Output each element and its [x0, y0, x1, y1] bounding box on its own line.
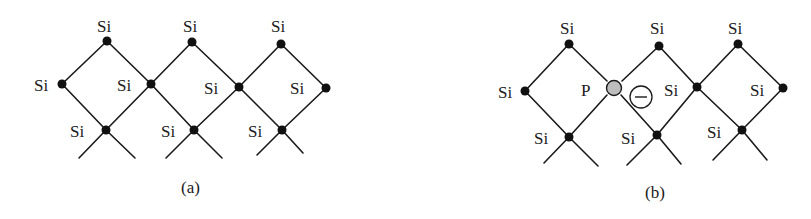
panel-b: Si Si Si Si P Si Si Si Si Si (b) — [498, 19, 788, 202]
si-label: Si — [290, 79, 304, 98]
panel-a: Si Si Si Si Si Si Si Si Si Si (a) — [34, 17, 331, 197]
free-electron — [630, 86, 652, 108]
si-atom — [693, 83, 702, 92]
si-atom — [147, 80, 156, 89]
si-label: Si — [97, 17, 111, 36]
si-label: Si — [70, 122, 84, 141]
si-label: Si — [161, 122, 175, 141]
caption-b: (b) — [645, 183, 665, 202]
si-atom — [58, 80, 67, 89]
atom-labels: Si Si Si Si Si Si Si Si Si Si — [34, 17, 304, 141]
si-label: Si — [498, 83, 512, 102]
si-label: Si — [750, 81, 764, 100]
si-atom — [655, 42, 664, 51]
si-label: Si — [248, 122, 262, 141]
si-label: Si — [560, 19, 574, 38]
si-label: Si — [621, 129, 635, 148]
si-label: Si — [664, 81, 678, 100]
si-label: Si — [707, 123, 721, 142]
si-atom — [102, 126, 111, 135]
caption-a: (a) — [181, 178, 200, 197]
si-label: Si — [650, 19, 664, 38]
si-atom — [565, 40, 574, 49]
si-label: Si — [117, 76, 131, 95]
si-label: Si — [183, 17, 197, 36]
si-atom — [521, 87, 530, 96]
si-atom — [653, 131, 662, 140]
si-atom — [278, 126, 287, 135]
si-label: Si — [204, 79, 218, 98]
si-atom — [738, 126, 747, 135]
si-label: Si — [534, 129, 548, 148]
si-atom — [734, 40, 743, 49]
silicon-lattice-figure: Si Si Si Si Si Si Si Si Si Si (a) — [0, 0, 811, 219]
si-atom — [103, 37, 112, 46]
si-label: Si — [728, 19, 742, 38]
si-atom — [322, 84, 331, 93]
phosphorus-dopant-atom — [607, 81, 622, 96]
si-atom — [235, 83, 244, 92]
si-atom — [277, 40, 286, 49]
si-label: Si — [34, 76, 48, 95]
si-atom — [565, 133, 574, 142]
bonds — [525, 44, 783, 166]
atom-labels: Si Si Si Si P Si Si Si Si Si — [498, 19, 764, 148]
p-label: P — [581, 81, 590, 100]
atoms — [521, 40, 788, 142]
si-label: Si — [271, 17, 285, 36]
si-atom — [779, 84, 788, 93]
si-atom — [188, 38, 197, 47]
bonds — [62, 41, 326, 158]
si-atom — [190, 126, 199, 135]
